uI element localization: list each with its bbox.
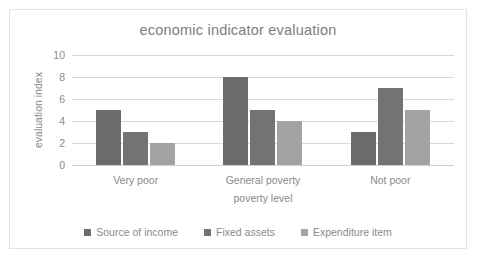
y-axis-tick-label: 4 <box>59 115 65 127</box>
chart-legend: Source of incomeFixed assetsExpenditure … <box>10 226 466 238</box>
chart-container: economic indicator evaluation evaluation… <box>9 9 467 249</box>
legend-swatch-icon <box>301 229 308 236</box>
bar[interactable] <box>277 121 302 165</box>
legend-label: Fixed assets <box>216 226 275 238</box>
y-axis-tick-label: 6 <box>59 93 65 105</box>
legend-swatch-icon <box>204 229 211 236</box>
bar[interactable] <box>351 132 376 165</box>
bar[interactable] <box>123 132 148 165</box>
y-axis-tick-label: 10 <box>53 49 65 61</box>
bar-group <box>327 55 454 165</box>
y-axis-title: evaluation index <box>32 55 44 165</box>
y-axis-tick-label: 2 <box>59 137 65 149</box>
plot-area: 0246810 <box>72 55 454 165</box>
bar[interactable] <box>223 77 248 165</box>
bar[interactable] <box>250 110 275 165</box>
legend-label: Source of income <box>96 226 178 238</box>
chart-title: economic indicator evaluation <box>10 22 466 38</box>
legend-item[interactable]: Source of income <box>84 226 178 238</box>
x-axis-category-label: Not poor <box>327 174 454 186</box>
x-axis-category-label: Very poor <box>72 174 199 186</box>
bar[interactable] <box>405 110 430 165</box>
legend-item[interactable]: Fixed assets <box>204 226 275 238</box>
bar[interactable] <box>150 143 175 165</box>
x-axis-category-label: General poverty <box>199 174 326 186</box>
legend-swatch-icon <box>84 229 91 236</box>
bar[interactable] <box>378 88 403 165</box>
legend-label: Expenditure item <box>313 226 392 238</box>
bar-group <box>199 55 326 165</box>
gridline <box>72 165 454 166</box>
y-axis-tick-label: 8 <box>59 71 65 83</box>
bar-group <box>72 55 199 165</box>
bar[interactable] <box>96 110 121 165</box>
x-axis-title: poverty level <box>72 192 454 204</box>
legend-item[interactable]: Expenditure item <box>301 226 392 238</box>
y-axis-tick-label: 0 <box>59 159 65 171</box>
